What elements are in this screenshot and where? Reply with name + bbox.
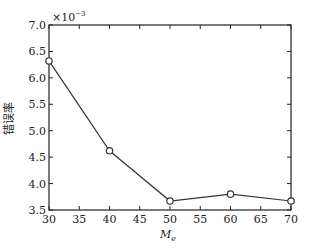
- data-series: [46, 58, 294, 204]
- data-point-marker: [288, 198, 294, 204]
- y-axis-ticks: 3.54.04.55.05.56.06.57.0: [29, 19, 292, 217]
- y-axis-label: 错误率: [2, 102, 16, 135]
- x-tick-label: 65: [254, 213, 268, 226]
- y-tick-label: 4.5: [29, 151, 47, 164]
- y-tick-label: 5.0: [29, 125, 47, 138]
- y-tick-label: 5.5: [29, 98, 47, 111]
- line-chart: 303540455055606570 3.54.04.55.05.56.06.5…: [0, 0, 311, 248]
- plot-frame: [49, 25, 291, 210]
- x-axis-ticks: 303540455055606570: [42, 25, 298, 226]
- plot-border: [49, 25, 291, 210]
- data-point-marker: [227, 191, 233, 197]
- data-point-marker: [167, 198, 173, 204]
- y-tick-label: 6.5: [29, 45, 47, 58]
- data-point-marker: [106, 148, 112, 154]
- y-tick-label: 3.5: [29, 204, 47, 217]
- x-axis-label: Me: [159, 228, 176, 243]
- y-tick-label: 4.0: [29, 178, 47, 191]
- x-tick-label: 60: [224, 213, 238, 226]
- x-tick-label: 45: [133, 213, 147, 226]
- x-tick-label: 35: [72, 213, 86, 226]
- x-tick-label: 50: [163, 213, 177, 226]
- y-tick-label: 6.0: [29, 72, 47, 85]
- x-tick-label: 55: [193, 213, 207, 226]
- x-tick-label: 70: [284, 213, 298, 226]
- data-point-marker: [46, 58, 52, 64]
- series-line: [49, 61, 291, 201]
- y-tick-label: 7.0: [29, 19, 47, 32]
- x-tick-label: 40: [103, 213, 117, 226]
- y-axis-multiplier: ×10−3: [52, 10, 86, 24]
